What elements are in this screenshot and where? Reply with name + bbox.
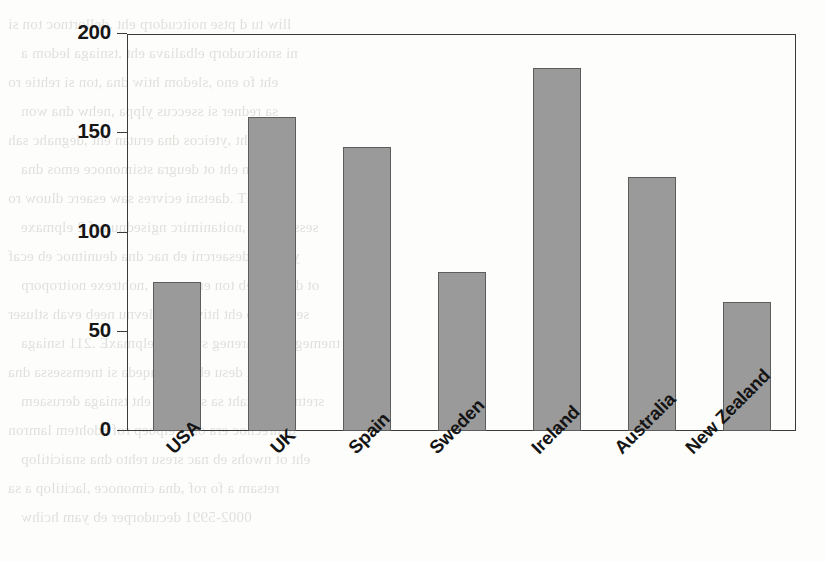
y-axis-tick bbox=[117, 331, 127, 332]
bar-ireland[interactable] bbox=[533, 68, 581, 431]
y-axis-tick-label: 0 bbox=[41, 417, 111, 441]
y-axis-tick bbox=[117, 33, 127, 34]
plot-area bbox=[127, 34, 796, 431]
y-axis-tick-label: 150 bbox=[41, 119, 111, 143]
bar-usa[interactable] bbox=[153, 282, 201, 431]
bar-chart: % increase 050100150200 USAUKSpainSweden… bbox=[0, 0, 825, 562]
bar-spain[interactable] bbox=[343, 147, 391, 431]
y-axis-tick bbox=[117, 430, 127, 431]
y-axis-tick-label: 200 bbox=[41, 20, 111, 44]
y-axis-tick-label: 100 bbox=[41, 219, 111, 243]
y-axis-tick-label: 50 bbox=[41, 318, 111, 342]
bar-uk[interactable] bbox=[248, 117, 296, 431]
y-axis-tick bbox=[117, 132, 127, 133]
y-axis-tick bbox=[117, 232, 127, 233]
